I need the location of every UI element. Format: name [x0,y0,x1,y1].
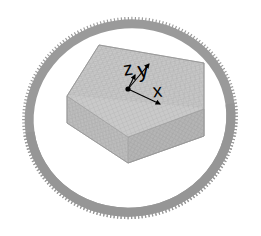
visualization-viewport: z y x [0,0,261,236]
mesh-slab-box [67,45,204,163]
scene-canvas: z y x [0,0,261,236]
